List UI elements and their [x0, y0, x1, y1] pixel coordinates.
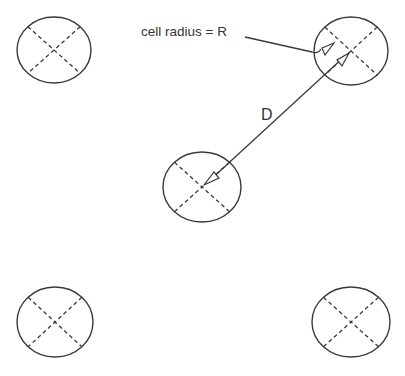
cells-group [17, 17, 390, 357]
diagram-canvas: cell radius = R D [0, 0, 405, 376]
arrowhead-top-right-icon [337, 53, 349, 66]
cell-bottom-right [312, 287, 390, 357]
radius-leader [245, 37, 334, 55]
cell-radius-label: cell radius = R [141, 24, 227, 39]
cell-top-left [17, 17, 91, 83]
cell-bottom-left [17, 287, 93, 357]
distance-arrow [204, 53, 349, 185]
arrowhead-radius-icon [322, 43, 334, 55]
distance-label: D [261, 106, 273, 123]
cell-diagonal [323, 297, 378, 346]
